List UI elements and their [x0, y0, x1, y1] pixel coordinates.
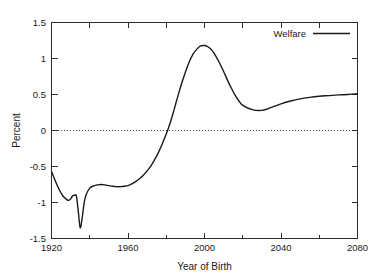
y-tick-label-0: 0	[41, 125, 46, 136]
legend-label-welfare: Welfare	[273, 28, 306, 39]
x-tick-label-1920: 1920	[41, 242, 62, 253]
x-axis-ticks	[52, 233, 358, 239]
x-axis-title: Year of Birth	[177, 261, 232, 272]
y-tick-label-neg1: -1	[38, 197, 46, 208]
chart-figure: 1.5 1 0.5 0 -0.5 -1 -1.5	[0, 0, 388, 280]
y-axis-title: Percent	[11, 113, 22, 148]
chart-svg: 1.5 1 0.5 0 -0.5 -1 -1.5	[0, 0, 388, 280]
x-axis-ticks-top	[90, 23, 320, 28]
x-tick-label-2040: 2040	[270, 242, 291, 253]
y-tick-label-neg0.5: -0.5	[30, 161, 46, 172]
y-axis-ticks	[52, 23, 58, 239]
legend: Welfare	[273, 28, 350, 39]
y-tick-label-1: 1	[41, 53, 46, 64]
y-tick-label-0.5: 0.5	[33, 89, 46, 100]
y-axis-ticks-right	[352, 59, 358, 203]
x-tick-label-1960: 1960	[117, 242, 138, 253]
x-tick-label-2000: 2000	[194, 242, 215, 253]
x-tick-label-2080: 2080	[347, 242, 368, 253]
y-tick-label-1.5: 1.5	[33, 17, 46, 28]
series-line-welfare	[52, 45, 358, 227]
